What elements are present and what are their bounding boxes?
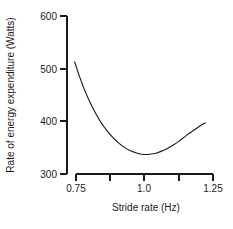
energy-expenditure-curve [75, 62, 206, 155]
y-tick-label-600: 600 [40, 11, 57, 22]
x-tick-label-1-0: 1.0 [137, 183, 151, 194]
plot-area: 600 500 400 300 Rate of energy expenditu… [0, 0, 233, 229]
y-tick-label-500: 500 [40, 64, 57, 75]
y-tick-label-300: 300 [40, 169, 57, 180]
x-axis-title: Stride rate (Hz) [112, 202, 180, 213]
y-tick-label-400: 400 [40, 116, 57, 127]
x-tick-label-1-25: 1.25 [203, 183, 223, 194]
y-axis-title: Rate of energy expenditure (Watts) [5, 17, 16, 172]
x-tick-label-0-75: 0.75 [66, 183, 86, 194]
chart-figure: 600 500 400 300 Rate of energy expenditu… [0, 0, 233, 229]
